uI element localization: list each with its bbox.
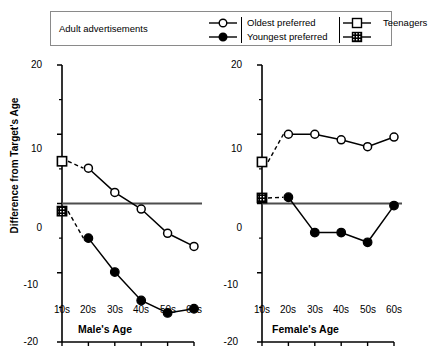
- legend-label-oldest-preferred: Oldest preferred: [247, 17, 316, 29]
- legend: Adult advertisements Oldest preferred: [50, 11, 392, 46]
- legend-entry-youngest-preferred: Youngest preferred: [207, 30, 337, 44]
- open-square-marker-icon: [341, 16, 375, 30]
- hatched-square-marker-icon: [341, 30, 375, 44]
- legend-group-teenagers: Teenagers: [339, 15, 432, 45]
- plot-area-male: [0, 55, 210, 348]
- filled-circle-marker-icon: [207, 30, 241, 44]
- chart-panel-male: Difference from Target's Age 20 10 0 -10…: [0, 55, 210, 348]
- open-circle-marker-icon: [207, 16, 241, 30]
- legend-label-teenagers: Teenagers: [383, 17, 427, 29]
- legend-entry-teenagers-hatched: [339, 30, 432, 44]
- legend-entry-teenagers-open: Teenagers: [339, 16, 432, 30]
- legend-title: Adult advertisements: [59, 23, 148, 34]
- chart-panel-female: 20 10 0 -10 -20 10s 20s 30s 40s 50s 60s …: [200, 55, 411, 348]
- legend-label-youngest-preferred: Youngest preferred: [247, 31, 327, 43]
- plot-area-female: [200, 55, 411, 348]
- legend-group-adult: Oldest preferred Youngest preferred: [207, 15, 337, 45]
- legend-entry-oldest-preferred: Oldest preferred: [207, 16, 337, 30]
